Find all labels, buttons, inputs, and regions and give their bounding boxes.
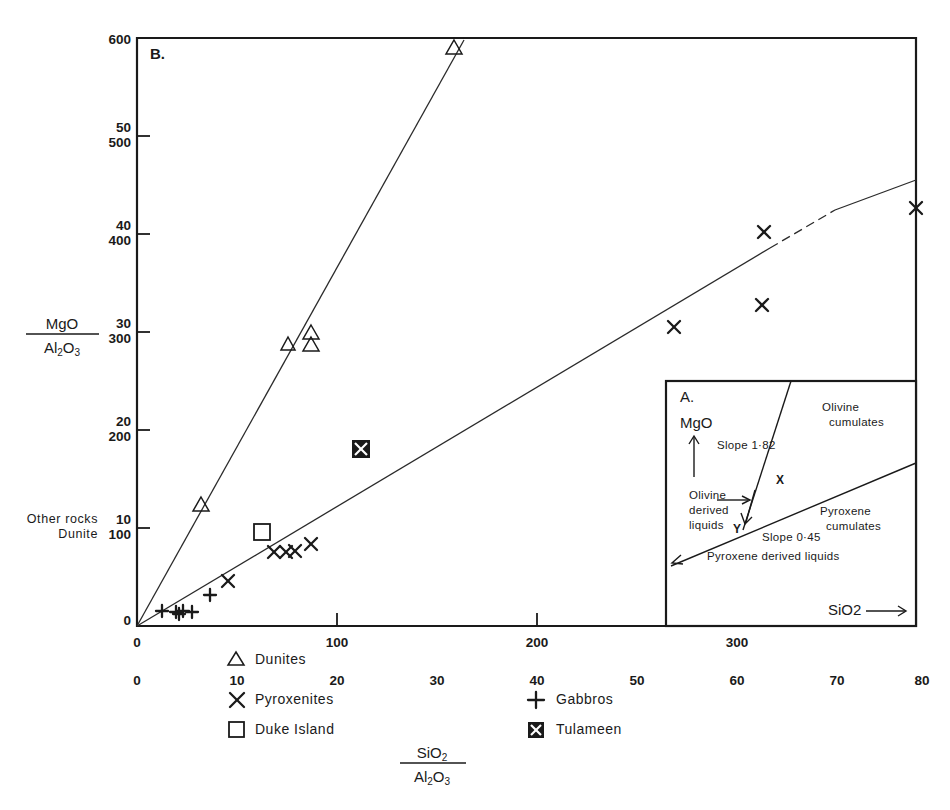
inset-label-olivine-cumulates-line2: cumulates bbox=[829, 416, 884, 428]
x-label-other-0: 0 bbox=[133, 673, 141, 688]
legend-label-gabbros: Gabbros bbox=[556, 691, 613, 707]
y-denom-o: O bbox=[63, 339, 75, 356]
x-label-dunite-300: 300 bbox=[726, 635, 749, 650]
x-denom-o: O bbox=[433, 768, 445, 785]
x-label-other-70: 70 bbox=[829, 673, 844, 688]
y-label-dunite-400: 400 bbox=[108, 233, 131, 248]
legend-item-pyroxenites[interactable]: Pyroxenites bbox=[230, 691, 334, 707]
marker-pyroxenite bbox=[280, 546, 292, 558]
x-axis-title: SiO2 Al2O3 bbox=[400, 744, 466, 787]
square-icon bbox=[229, 722, 244, 737]
scatter-chart-svg: 600 500 400 300 200 100 0 50 40 30 20 10… bbox=[0, 0, 950, 810]
y-label-dunite-500: 500 bbox=[108, 135, 131, 150]
panel-b-label: B. bbox=[150, 45, 165, 62]
y-denom-sub-3: 3 bbox=[75, 347, 81, 358]
x-label-other-40: 40 bbox=[529, 673, 544, 688]
inset-label-olivine-derived-line2: derived bbox=[689, 504, 729, 516]
inset-label-slope-olivine: Slope 1·82 bbox=[717, 439, 776, 451]
x-axis-labels-dunite: 0 100 200 300 bbox=[133, 635, 748, 650]
x-axis-ticks bbox=[137, 613, 737, 626]
marker-pyroxenite bbox=[668, 321, 680, 333]
marker-dunite bbox=[281, 337, 295, 350]
x-label-other-50: 50 bbox=[629, 673, 644, 688]
x-num-sub-2: 2 bbox=[442, 752, 448, 763]
x-denom-al: Al bbox=[414, 768, 427, 785]
x-label-other-60: 60 bbox=[729, 673, 744, 688]
inset-panel-label: A. bbox=[680, 388, 694, 405]
series-dunites-markers bbox=[193, 40, 462, 511]
x-label-other-10: 10 bbox=[229, 673, 244, 688]
legend-label-tulameen: Tulameen bbox=[556, 721, 622, 737]
legend-label-duke-island: Duke Island bbox=[255, 721, 334, 737]
x-label-dunite-100: 100 bbox=[326, 635, 349, 650]
inset-label-olivine-derived-line1: Olivine bbox=[689, 489, 726, 501]
y-label-dunite-300: 300 bbox=[108, 331, 131, 346]
y-label-other-30: 30 bbox=[116, 316, 131, 331]
x-label-other-20: 20 bbox=[329, 673, 344, 688]
inset-point-x: X bbox=[776, 473, 784, 487]
marker-pyroxenite bbox=[758, 226, 770, 238]
x-label-dunite-0: 0 bbox=[133, 635, 141, 650]
y-label-dunite-0: 0 bbox=[123, 613, 131, 628]
x-label-dunite-200: 200 bbox=[526, 635, 549, 650]
figure-container: 600 500 400 300 200 100 0 50 40 30 20 10… bbox=[0, 0, 950, 810]
marker-dunite bbox=[193, 497, 209, 511]
x-denom-sub-3: 3 bbox=[445, 776, 451, 787]
y-axis-labels-other-rocks: 50 40 30 20 10 bbox=[116, 120, 131, 527]
legend-item-gabbros[interactable]: Gabbros bbox=[528, 691, 613, 708]
legend-item-duke-island[interactable]: Duke Island bbox=[229, 721, 334, 737]
marker-pyroxenite bbox=[222, 575, 234, 587]
inset-point-y: Y bbox=[733, 522, 741, 536]
legend-item-dunites[interactable]: Dunites bbox=[228, 651, 306, 667]
inset-label-pyroxene-cumulates-line1: Pyroxene bbox=[820, 505, 871, 517]
x-axis-labels-other-rocks: 0 10 20 30 40 50 60 70 80 bbox=[133, 673, 929, 688]
y-label-dunite-100: 100 bbox=[108, 527, 131, 542]
x-axis-title-numerator: SiO2 bbox=[417, 744, 448, 763]
y-axis-ticks bbox=[137, 38, 150, 528]
inset-y-axis-label: MgO bbox=[680, 414, 713, 431]
marker-pyroxenite bbox=[756, 299, 768, 311]
series-gabbros-markers bbox=[156, 589, 216, 620]
marker-tulameen bbox=[352, 440, 370, 458]
inset-label-pyroxene-cumulates-line2: cumulates bbox=[826, 520, 881, 532]
inset-x-sio: SiO2 bbox=[828, 601, 861, 618]
inset-x-axis-label: SiO2 bbox=[828, 601, 861, 618]
x-label-other-30: 30 bbox=[429, 673, 444, 688]
y-label-other-20: 20 bbox=[116, 414, 131, 429]
x-icon bbox=[230, 693, 244, 707]
legend-item-tulameen[interactable]: Tulameen bbox=[528, 721, 622, 738]
y-axis-title-numerator: MgO bbox=[46, 315, 79, 332]
trendline-pyroxene-cumulates-dashed bbox=[770, 210, 835, 248]
y-scale-name-other-rocks: Other rocks bbox=[27, 512, 98, 526]
legend-label-pyroxenites: Pyroxenites bbox=[255, 691, 334, 707]
y-axis-title: MgO Al2O3 bbox=[26, 315, 99, 358]
marker-pyroxenite bbox=[305, 538, 317, 550]
marker-gabbro bbox=[204, 589, 216, 601]
inset-panel-a: A. MgO SiO2 bbox=[666, 381, 916, 626]
y-axis-scale-names: Other rocks Dunite bbox=[27, 512, 98, 541]
marker-gabbro bbox=[156, 605, 168, 617]
inset-label-pyroxene-derived: Pyroxene derived liquids bbox=[707, 550, 840, 562]
series-tulameen-markers bbox=[352, 440, 370, 458]
series-duke-island-markers bbox=[254, 524, 270, 540]
y-label-dunite-600: 600 bbox=[108, 32, 131, 47]
y-denom-al: Al bbox=[44, 339, 57, 356]
x-label-other-80: 80 bbox=[914, 673, 929, 688]
y-axis-title-denominator: Al2O3 bbox=[44, 339, 81, 358]
y-scale-name-dunite: Dunite bbox=[58, 527, 98, 541]
x-num-sio: SiO bbox=[417, 744, 442, 761]
inset-label-slope-pyroxene: Slope 0·45 bbox=[762, 531, 821, 543]
x-axis-title-denominator: Al2O3 bbox=[414, 768, 451, 787]
trendline-pyroxene-cumulates-end bbox=[835, 180, 916, 210]
filled-square-icon bbox=[528, 722, 544, 738]
marker-pyroxenite bbox=[268, 546, 280, 558]
plus-icon bbox=[528, 692, 544, 708]
y-label-dunite-200: 200 bbox=[108, 429, 131, 444]
inset-label-olivine-cumulates-line1: Olivine bbox=[822, 401, 859, 413]
legend-label-dunites: Dunites bbox=[255, 651, 306, 667]
marker-gabbro bbox=[170, 606, 182, 618]
trendline-olivine-cumulates bbox=[137, 40, 464, 626]
inset-label-olivine-derived-line3: liquids bbox=[689, 519, 724, 531]
y-label-other-10: 10 bbox=[116, 512, 131, 527]
y-label-other-50: 50 bbox=[116, 120, 131, 135]
